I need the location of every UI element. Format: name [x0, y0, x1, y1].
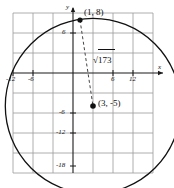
y-tick-label-neg12: -12 — [56, 129, 65, 136]
radius-length-label: √173 — [93, 49, 111, 67]
radical-overbar — [98, 49, 115, 50]
center-point-label: (3, -5) — [98, 99, 121, 108]
x-tick-label-neg12: -12 — [6, 76, 15, 83]
x-axis-name: x — [158, 64, 161, 71]
y-tick-label-neg18: -18 — [56, 162, 65, 169]
x-tick-label-neg6: -6 — [28, 76, 34, 83]
x-tick-label-12: 12 — [129, 76, 136, 83]
x-tick-label-6: 6 — [111, 76, 115, 83]
graph-canvas — [0, 0, 174, 188]
center-point-marker — [90, 103, 96, 109]
y-axis-arrow — [71, 7, 75, 12]
y-tick-label-6: 6 — [62, 29, 66, 36]
coordinate-plane-figure: -12 -6 6 12 6 -6 -12 -18 x y (1, 8) (3, … — [0, 0, 174, 188]
point-on-circle-marker — [77, 17, 82, 22]
radicand-value: 173 — [98, 55, 112, 65]
circle-graph — [5, 18, 174, 188]
point-on-circle-label: (1, 8) — [84, 8, 104, 17]
x-axis-arrow — [158, 71, 163, 75]
y-tick-label-neg6: -6 — [59, 109, 65, 116]
y-axis-name: y — [66, 4, 69, 11]
